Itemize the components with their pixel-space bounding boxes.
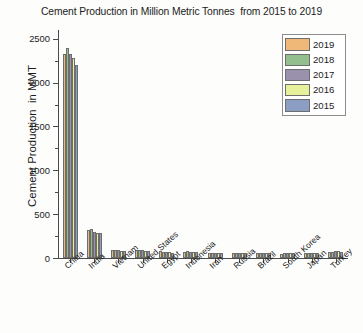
legend-item[interactable]: 2015 [285, 98, 343, 113]
legend-swatch-icon [285, 69, 310, 82]
bar [75, 65, 78, 258]
y-axis-tick-label: 1000 [8, 166, 50, 175]
legend-label: 2019 [313, 40, 334, 50]
legend-item[interactable]: 2019 [285, 37, 343, 52]
legend-label: 2015 [313, 101, 334, 111]
legend-label: 2018 [313, 55, 334, 65]
y-axis-tick-label: 1500 [8, 122, 50, 131]
y-axis-tick-label: 500 [8, 210, 50, 219]
y-axis-tick-label: 2500 [8, 34, 50, 43]
legend-swatch-icon [285, 84, 310, 97]
legend-swatch-icon [285, 99, 310, 112]
legend-item[interactable]: 2017 [285, 67, 343, 82]
y-axis-tick-label: 2000 [8, 78, 50, 87]
y-axis-tick [53, 258, 58, 259]
legend-item[interactable]: 2016 [285, 83, 343, 98]
legend-item[interactable]: 2018 [285, 52, 343, 67]
legend-swatch-icon [285, 38, 310, 51]
chart-legend: 20192018201720162015 [282, 34, 346, 116]
legend-label: 2017 [313, 70, 334, 80]
legend-swatch-icon [285, 54, 310, 67]
chart-figure: Cement Production in Million Metric Tonn… [0, 0, 363, 333]
y-axis-tick-label: 0 [8, 254, 50, 263]
legend-label: 2016 [313, 85, 334, 95]
chart-title: Cement Production in Million Metric Tonn… [0, 6, 363, 17]
